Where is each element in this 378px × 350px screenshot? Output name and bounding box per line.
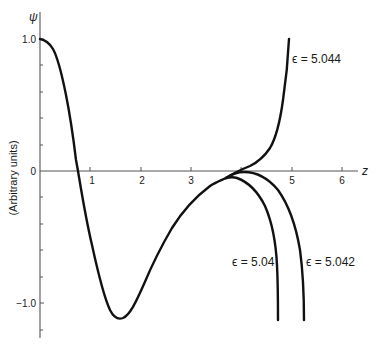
curve-eps-504 — [226, 177, 278, 320]
curve-eps-5042 — [226, 172, 304, 320]
x-tick-label-5: 5 — [289, 175, 295, 186]
y-tick-label-0: 0 — [30, 166, 36, 177]
x-tick-label-1: 1 — [89, 175, 95, 186]
x-ticks — [90, 167, 342, 171]
y-axis-symbol: ψ — [29, 10, 38, 24]
wavefunction-chart: ψ z (Arbitrary units) 1.0 0 −1.0 1 2 3 5… — [0, 0, 378, 350]
x-tick-label-2: 2 — [139, 175, 145, 186]
x-axis-symbol: z — [361, 164, 368, 178]
label-eps-5044: ϵ = 5.044 — [292, 52, 341, 66]
y-units-label: (Arbitrary units) — [7, 140, 19, 215]
y-tick-label-neg1: −1.0 — [16, 298, 36, 309]
label-eps-504: ϵ = 5.04 — [232, 255, 275, 269]
x-tick-label-6: 6 — [339, 175, 345, 186]
label-eps-5042: ϵ = 5.042 — [306, 255, 355, 269]
shared-curve — [40, 39, 226, 319]
y-ticks — [40, 39, 44, 330]
y-tick-label-1: 1.0 — [22, 34, 36, 45]
curve-eps-5044 — [226, 39, 289, 178]
x-tick-label-3: 3 — [188, 175, 194, 186]
